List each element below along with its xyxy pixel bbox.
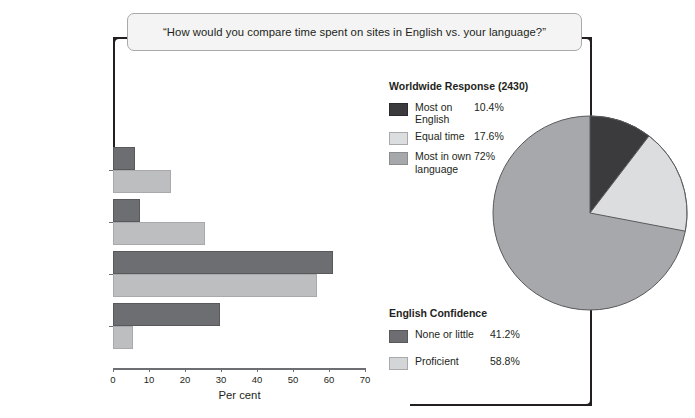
legend-label-equal-time: Equal time xyxy=(415,130,473,142)
x-tick-40 xyxy=(257,368,258,372)
x-tick-0 xyxy=(113,368,114,372)
x-tick-10 xyxy=(149,368,150,372)
legend-worldwide-title: Worldwide Response (2430) xyxy=(389,80,528,92)
legend-swatch-most-on-english xyxy=(389,103,408,116)
question-text: “How would you compare time spent on sit… xyxy=(163,26,546,38)
legend-confidence-title: English Confidence xyxy=(389,307,487,319)
legend-value-most-on-english: 10.4% xyxy=(474,101,504,113)
legend-swatch-none-or-little xyxy=(389,330,408,343)
x-tick-30 xyxy=(221,368,222,372)
bar-none-or-little-1 xyxy=(113,147,135,170)
figure-canvas: “How would you compare time spent on sit… xyxy=(0,0,695,418)
x-tick-50 xyxy=(293,368,294,372)
bar-proficient-3 xyxy=(113,274,317,297)
bar-proficient-4 xyxy=(113,326,133,349)
legend-row-none-or-little: None or little 41.2% xyxy=(389,328,487,343)
x-tick-label-40: 40 xyxy=(252,374,263,385)
legend-value-none-or-little: 41.2% xyxy=(490,328,520,340)
bar-none-or-little-4 xyxy=(113,303,220,326)
x-tick-label-70: 70 xyxy=(360,374,371,385)
legend-label-most-on-english: Most on English xyxy=(415,101,473,125)
legend-swatch-most-in-own-language xyxy=(389,152,408,165)
bar-chart: Mostly on English-language Equal amount … xyxy=(0,140,380,400)
bar-none-or-little-2 xyxy=(113,199,140,222)
question-callout: “How would you compare time spent on sit… xyxy=(127,13,582,51)
legend-row-most-in-own-language: Most in own language 72% xyxy=(389,150,528,174)
x-tick-label-50: 50 xyxy=(288,374,299,385)
legend-label-proficient: Proficient xyxy=(415,355,459,367)
legend-swatch-proficient xyxy=(389,357,408,370)
bracket-segment-bottom xyxy=(410,404,592,406)
legend-worldwide-response: Worldwide Response (2430) Most on Englis… xyxy=(389,80,528,180)
x-tick-label-10: 10 xyxy=(144,374,155,385)
x-tick-label-20: 20 xyxy=(180,374,191,385)
legend-value-proficient: 58.8% xyxy=(490,355,520,367)
x-tick-label-30: 30 xyxy=(216,374,227,385)
x-tick-70 xyxy=(365,368,366,372)
legend-value-equal-time: 17.6% xyxy=(474,130,504,142)
legend-value-most-in-own-language: 72% xyxy=(474,150,495,162)
x-tick-label-0: 0 xyxy=(110,374,115,385)
x-axis-title: Per cent xyxy=(113,389,366,401)
legend-row-equal-time: Equal time 17.6% xyxy=(389,130,528,145)
bar-none-or-little-3 xyxy=(113,251,333,274)
legend-label-most-in-own-language: Most in own language xyxy=(415,150,473,174)
legend-row-proficient: Proficient 58.8% xyxy=(389,355,487,370)
x-tick-20 xyxy=(185,368,186,372)
x-tick-label-60: 60 xyxy=(324,374,335,385)
bar-proficient-2 xyxy=(113,222,205,245)
legend-row-most-on-english: Most on English 10.4% xyxy=(389,101,528,125)
legend-english-confidence: English Confidence None or little 41.2% … xyxy=(389,307,487,382)
legend-swatch-equal-time xyxy=(389,132,408,145)
x-tick-60 xyxy=(329,368,330,372)
bar-proficient-1 xyxy=(113,170,171,193)
legend-label-none-or-little: None or little xyxy=(415,328,474,340)
